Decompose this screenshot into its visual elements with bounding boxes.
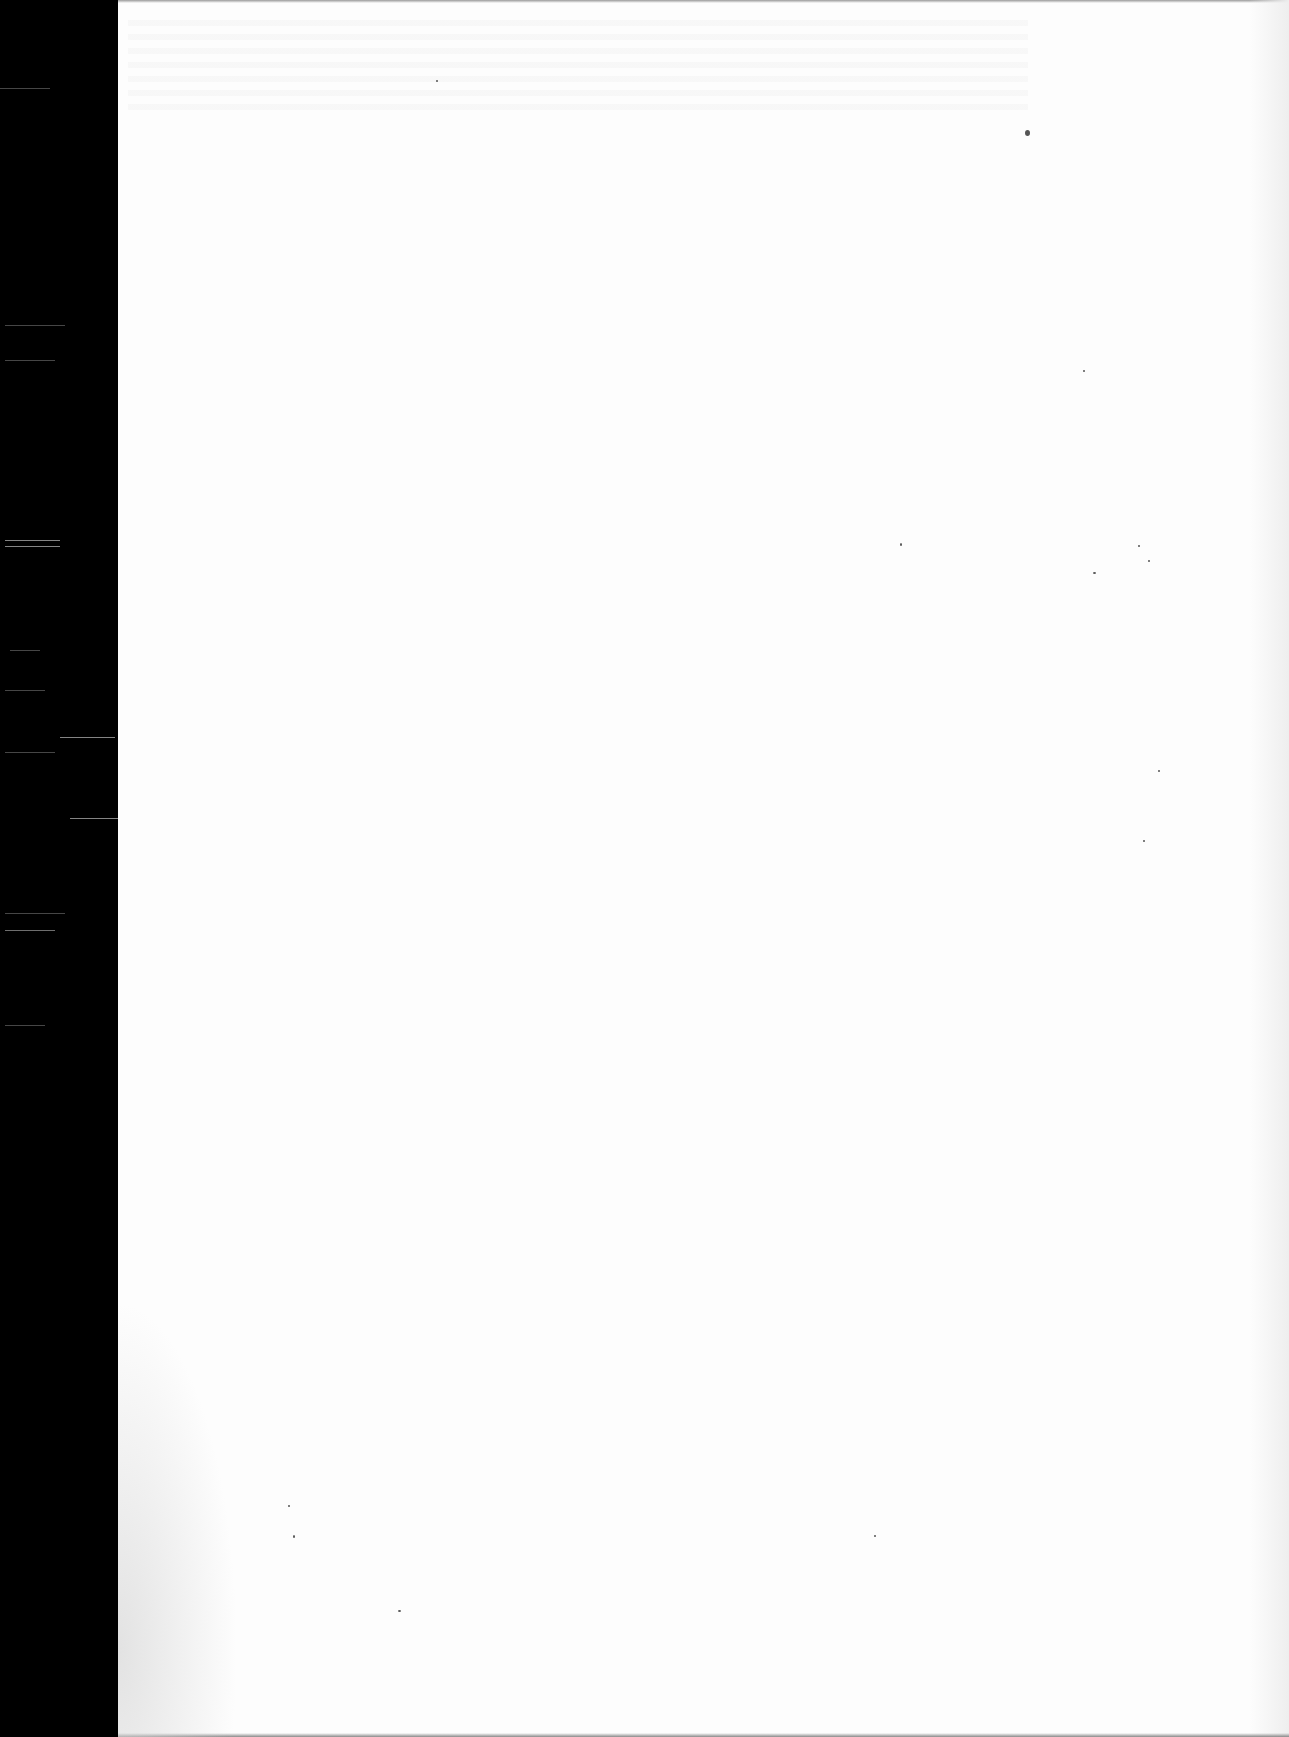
scanned-document [0,0,1289,1737]
scan-streak [10,650,40,651]
scan-streak [70,818,120,819]
scan-streak [5,360,55,361]
dust-speck [1083,370,1085,372]
page-top-edge [118,0,1289,3]
dust-speck [288,1505,290,1507]
dust-speck [1093,572,1096,574]
scan-streak [5,913,65,914]
page-shading [118,1300,238,1737]
scan-streak [5,540,60,541]
scan-streak [5,690,45,691]
dust-speck [1025,130,1030,136]
dust-speck [1138,545,1140,547]
page-right-edge [1249,0,1289,1737]
scan-streak [5,930,55,931]
dust-speck [1148,560,1150,562]
scan-streak [60,737,115,738]
dust-speck [293,1535,295,1538]
dust-speck [1143,840,1145,842]
scanner-bed-edge [0,0,120,1737]
paper-page [118,0,1289,1737]
scan-streak [5,752,55,753]
dust-speck [436,80,438,82]
scan-streak [5,546,60,547]
page-bottom-edge [118,1733,1289,1737]
bleed-through-text [128,20,1028,110]
scan-streak [0,88,50,89]
dust-speck [1158,770,1160,772]
dust-speck [874,1535,876,1537]
dust-speck [398,1610,401,1612]
scan-streak [5,325,65,326]
dust-speck [900,543,902,546]
scan-streak [5,1025,45,1026]
